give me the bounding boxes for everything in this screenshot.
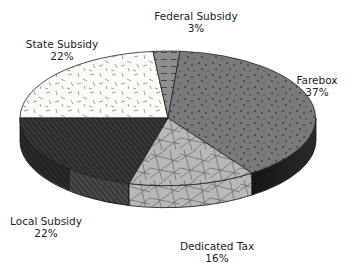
label-federal-subsidy: Federal Subsidy 3% [154, 10, 237, 34]
label-local-subsidy: Local Subsidy 22% [10, 215, 82, 239]
label-state-subsidy: State Subsidy 22% [26, 38, 98, 62]
label-farebox: Farebox 37% [296, 74, 337, 98]
label-dedicated-tax: Dedicated Tax 16% [180, 240, 254, 264]
